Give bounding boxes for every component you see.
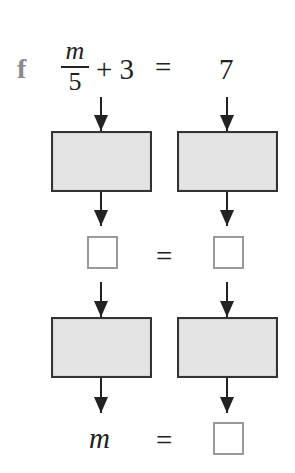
arrow-down-icon xyxy=(100,192,102,226)
arrow-down-icon xyxy=(226,282,228,317)
answer-box-final[interactable] xyxy=(213,422,244,455)
answer-box-right-middle[interactable] xyxy=(213,236,244,269)
variable-m: m xyxy=(89,422,110,455)
arrow-down-icon xyxy=(226,192,228,226)
answer-box-left-middle[interactable] xyxy=(87,236,118,269)
plus-three: + 3 xyxy=(96,53,134,86)
equals-sign-bottom: = xyxy=(156,424,172,457)
equals-sign-top: = xyxy=(155,51,171,84)
numerator: m xyxy=(60,38,90,66)
arrow-down-icon xyxy=(226,97,228,131)
denominator: 5 xyxy=(60,68,90,95)
operation-box-right-1[interactable] xyxy=(177,131,278,192)
operation-box-left-2[interactable] xyxy=(51,317,152,378)
equals-sign-middle: = xyxy=(156,240,172,273)
arrow-down-icon xyxy=(100,282,102,317)
arrow-down-icon xyxy=(100,97,102,131)
rhs-value: 7 xyxy=(219,53,234,86)
operation-box-left-1[interactable] xyxy=(51,131,152,192)
part-label: f xyxy=(17,53,26,85)
fraction-m-over-5: m 5 xyxy=(60,38,90,95)
arrow-down-icon xyxy=(100,378,102,413)
operation-box-right-2[interactable] xyxy=(177,317,278,378)
arrow-down-icon xyxy=(226,378,228,413)
